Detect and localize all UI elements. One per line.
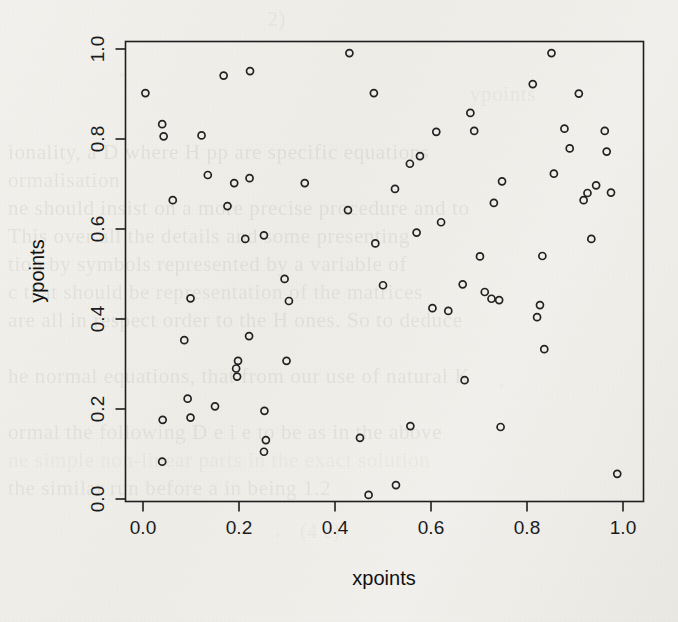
scatter-point (488, 295, 495, 302)
scatter-point (445, 307, 452, 314)
scatter-point (539, 253, 546, 260)
scatter-point (261, 407, 268, 414)
scatter-point (142, 90, 149, 97)
scatter-point (561, 125, 568, 132)
scatter-point (588, 235, 595, 242)
scatter-point (372, 240, 379, 247)
scatter-point (231, 180, 238, 187)
scatter-point (159, 416, 166, 423)
scatter-point (392, 482, 399, 489)
scatter-plot-figure: 0.00.20.40.60.81.0 0.00.20.40.60.81.0 xp… (0, 0, 678, 622)
scatter-point (380, 282, 387, 289)
scatter-point (346, 50, 353, 57)
scatter-point (476, 253, 483, 260)
x-axis-tick-labels: 0.00.20.40.60.81.0 (130, 517, 636, 538)
scatter-point (204, 172, 211, 179)
scatter-point (392, 185, 399, 192)
y-tick-label: 1.0 (87, 36, 108, 62)
scatter-point (198, 132, 205, 139)
scatter-point (224, 203, 231, 210)
scatter-point (603, 148, 610, 155)
scatter-point (459, 281, 466, 288)
scatter-point (301, 180, 308, 187)
scatter-point (550, 170, 557, 177)
scatter-point (601, 127, 608, 134)
scatter-point (344, 207, 351, 214)
x-axis-title: xpoints (352, 567, 415, 589)
scatter-point (285, 298, 292, 305)
scatter-point (281, 275, 288, 282)
scatter-point (429, 305, 436, 312)
x-tick-label: 0.6 (418, 517, 444, 538)
scatter-point (356, 434, 363, 441)
x-tick-label: 0.0 (130, 517, 156, 538)
scatter-point (233, 365, 240, 372)
y-axis-title: ypoints (26, 239, 48, 302)
scatter-point (260, 448, 267, 455)
scatter-point (413, 229, 420, 236)
scatter-point (187, 295, 194, 302)
scatter-point (187, 414, 194, 421)
scatter-point (184, 395, 191, 402)
scatter-point (242, 235, 249, 242)
scatter-point (529, 81, 536, 88)
scatter-point (160, 133, 167, 140)
x-axis-ticks (143, 502, 623, 512)
scatter-point (370, 90, 377, 97)
scatter-point (496, 297, 503, 304)
y-tick-label: 0.8 (87, 126, 108, 152)
scatter-point (566, 145, 573, 152)
scatter-point (433, 128, 440, 135)
scatter-point (212, 403, 219, 410)
scatter-point (246, 333, 253, 340)
scatter-point (283, 357, 290, 364)
scatter-point (580, 197, 587, 204)
scatter-point (534, 314, 541, 321)
scatter-point (608, 189, 615, 196)
scatter-point (497, 424, 504, 431)
scatter-point (365, 491, 372, 498)
x-tick-label: 0.2 (226, 517, 252, 538)
scatter-point (220, 72, 227, 79)
scatter-point (614, 470, 621, 477)
scatter-point (584, 190, 591, 197)
plot-panel-border (126, 42, 644, 502)
scatter-point (461, 377, 468, 384)
scatter-point (467, 109, 474, 116)
scatter-point (235, 357, 242, 364)
x-tick-label: 0.4 (322, 517, 349, 538)
scatter-point (499, 178, 506, 185)
scatter-point (159, 121, 166, 128)
scatter-plot-svg: 0.00.20.40.60.81.0 0.00.20.40.60.81.0 xp… (0, 0, 678, 622)
y-axis-ticks (116, 49, 126, 499)
y-axis-tick-labels: 0.00.20.40.60.81.0 (87, 36, 108, 512)
scatter-point (471, 127, 478, 134)
scatter-points-group (142, 50, 621, 499)
scatter-point (536, 302, 543, 309)
y-tick-label: 0.6 (87, 216, 108, 242)
scatter-point (262, 437, 269, 444)
scatter-point (416, 153, 423, 160)
scatter-point (593, 182, 600, 189)
scatter-point (438, 219, 445, 226)
scatter-point (169, 197, 176, 204)
scatter-point (234, 373, 241, 380)
scatter-point (181, 337, 188, 344)
scatter-point (541, 346, 548, 353)
x-tick-label: 1.0 (610, 517, 636, 538)
scatter-point (481, 289, 488, 296)
scatter-point (548, 50, 555, 57)
scatter-point (407, 423, 414, 430)
y-tick-label: 0.0 (87, 486, 108, 512)
scatter-point (246, 175, 253, 182)
y-tick-label: 0.2 (87, 396, 108, 422)
scatter-point (490, 199, 497, 206)
x-tick-label: 0.8 (514, 517, 540, 538)
scatter-point (406, 160, 413, 167)
scatter-point (575, 90, 582, 97)
scatter-point (260, 232, 267, 239)
scatter-point (159, 458, 166, 465)
y-tick-label: 0.4 (87, 305, 108, 332)
scatter-point (247, 68, 254, 75)
